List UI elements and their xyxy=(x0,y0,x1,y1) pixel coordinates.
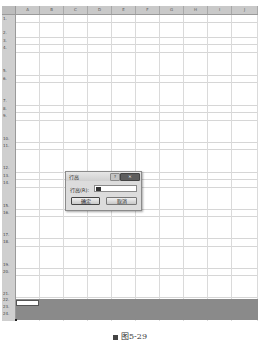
column-gridline xyxy=(257,15,258,321)
column-gridline xyxy=(111,15,112,321)
row-gridline xyxy=(16,105,258,106)
row-header-2[interactable]: 2. xyxy=(2,22,15,37)
column-header-bar: A B C D E F G H I J xyxy=(2,6,258,15)
column-gridline xyxy=(183,15,184,321)
column-header-h[interactable]: H xyxy=(184,6,208,14)
row-gridline xyxy=(16,82,258,83)
row-gridline xyxy=(16,44,258,45)
row-height-input[interactable] xyxy=(94,185,137,192)
row-header-11[interactable]: 11. xyxy=(2,142,15,149)
row-gridline xyxy=(16,297,258,298)
row-gridline xyxy=(16,275,258,276)
row-header-19[interactable]: 19. xyxy=(2,246,15,268)
row-header-6[interactable]: 6. xyxy=(2,75,15,82)
row-header-10[interactable]: 10. xyxy=(2,120,15,142)
row-header-9[interactable]: 9. xyxy=(2,112,15,120)
help-icon[interactable]: ? xyxy=(110,173,120,181)
column-header-a[interactable]: A xyxy=(16,6,40,14)
ok-button[interactable]: 确定 xyxy=(71,197,100,205)
row-header-21[interactable]: 21. xyxy=(2,275,15,297)
row-gridline xyxy=(16,112,258,113)
row-gridline xyxy=(16,149,258,150)
figure-caption: 图5-29 xyxy=(0,330,260,341)
column-header-i[interactable]: I xyxy=(208,6,232,14)
row-gridline xyxy=(16,52,258,53)
row-gridline xyxy=(16,37,258,38)
column-gridline xyxy=(63,15,64,321)
row-header-16[interactable]: 16. xyxy=(2,209,15,216)
column-header-j[interactable]: J xyxy=(232,6,258,14)
row-height-label: 行高(R): xyxy=(70,186,89,193)
column-gridline xyxy=(159,15,160,321)
cancel-button[interactable]: 取消 xyxy=(106,197,137,205)
column-header-b[interactable]: B xyxy=(40,6,64,14)
row-header-8[interactable]: 8. xyxy=(2,105,15,112)
row-header-18[interactable]: 18. xyxy=(2,238,15,246)
column-gridline xyxy=(87,15,88,321)
active-cell[interactable] xyxy=(16,300,39,306)
row-header-14[interactable]: 14. xyxy=(2,179,15,187)
row-header-3[interactable]: 3. xyxy=(2,37,15,44)
row-header-20[interactable]: 20. xyxy=(2,268,15,275)
column-gridline xyxy=(135,15,136,321)
row-gridline xyxy=(16,268,258,269)
row-header-bar: 1. 2. 3. 4. 5. 6. 7. 8. 9. 10. 11. 12. 1… xyxy=(2,15,16,321)
close-icon[interactable]: ✕ xyxy=(120,173,140,181)
row-gridline xyxy=(16,238,258,239)
row-gridline xyxy=(16,120,258,121)
row-gridline xyxy=(16,246,258,247)
row-header-7[interactable]: 7. xyxy=(2,82,15,105)
row-header-12[interactable]: 12. xyxy=(2,149,15,172)
row-gridline xyxy=(16,216,258,217)
spreadsheet: A B C D E F G H I J 1. 2. 3. 4. 5. 6. 7.… xyxy=(2,6,258,321)
column-gridline xyxy=(39,15,40,321)
caption-text: 图5-29 xyxy=(121,332,147,341)
dialog-title: 行高 xyxy=(69,173,79,180)
selected-range[interactable] xyxy=(16,299,258,320)
column-header-c[interactable]: C xyxy=(64,6,88,14)
row-header-17[interactable]: 17. xyxy=(2,216,15,238)
row-height-dialog: 行高 ? ✕ 行高(R): 确定 取消 xyxy=(65,171,142,211)
column-gridline xyxy=(231,15,232,321)
row-header-24[interactable]: 24. xyxy=(2,310,15,317)
row-header-13[interactable]: 13. xyxy=(2,172,15,179)
dialog-titlebar[interactable]: 行高 ? ✕ xyxy=(66,172,141,181)
row-gridline xyxy=(16,75,258,76)
row-header-15[interactable]: 15. xyxy=(2,187,15,209)
row-header-5[interactable]: 5. xyxy=(2,52,15,75)
selected-text-highlight xyxy=(96,187,101,191)
column-header-d[interactable]: D xyxy=(88,6,112,14)
row-header-4[interactable]: 4. xyxy=(2,44,15,52)
column-gridline xyxy=(207,15,208,321)
square-bullet-icon xyxy=(113,335,118,340)
select-all-corner[interactable] xyxy=(2,6,16,14)
row-gridline xyxy=(16,142,258,143)
column-header-e[interactable]: E xyxy=(112,6,136,14)
column-header-f[interactable]: F xyxy=(136,6,160,14)
fill-handle[interactable] xyxy=(15,319,17,321)
row-header-23[interactable]: 23. xyxy=(2,303,15,310)
column-header-g[interactable]: G xyxy=(160,6,184,14)
row-header-1[interactable]: 1. xyxy=(2,15,15,22)
row-gridline xyxy=(16,22,258,23)
